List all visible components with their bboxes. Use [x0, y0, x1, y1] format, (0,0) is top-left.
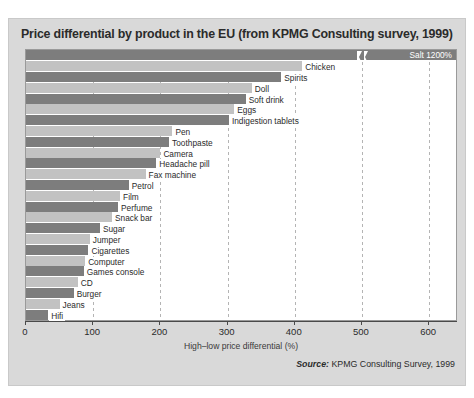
bar — [26, 212, 112, 222]
x-tick-label-100: 100 — [84, 326, 100, 337]
bar — [26, 245, 88, 255]
x-tick-label-300: 300 — [219, 326, 235, 337]
bar-label: CD — [79, 278, 95, 288]
bar — [26, 288, 74, 298]
plot-inner: Salt 1200%ChickenSpiritsDollSoft drinkEg… — [26, 50, 456, 320]
x-tick-300 — [227, 321, 228, 325]
bar-label: Games console — [85, 267, 147, 277]
bar — [26, 115, 229, 125]
bar-label: Snack bar — [113, 213, 154, 223]
bar — [26, 277, 78, 287]
bar-label: Headache pill — [157, 159, 211, 169]
bar-label: Chicken — [303, 62, 337, 72]
x-tick-500 — [361, 321, 362, 325]
bar — [26, 158, 156, 168]
bar-label: Camera — [161, 149, 195, 159]
chart-figure: Price differential by product in the EU … — [8, 18, 466, 386]
bar-label: Jeans — [61, 300, 87, 310]
bar-label: Fax machine — [147, 170, 199, 180]
source-prefix: Source: — [296, 359, 329, 369]
bar — [26, 223, 100, 233]
x-tick-label-600: 600 — [420, 326, 436, 337]
bar-label: Salt 1200% — [408, 50, 454, 60]
source-note: Source: KPMG Consulting Survey, 1999 — [296, 359, 455, 369]
bar — [26, 256, 85, 266]
bar — [26, 83, 252, 93]
chart-title: Price differential by product in the EU … — [21, 27, 453, 41]
bar-label: Film — [121, 192, 141, 202]
x-tick-100 — [92, 321, 93, 325]
bar-label: Pen — [173, 127, 192, 137]
bar-label: Doll — [253, 84, 271, 94]
x-axis-label: High–low price differential (%) — [25, 341, 457, 351]
bar — [26, 180, 129, 190]
x-tick-0 — [25, 321, 26, 325]
bar — [26, 50, 456, 60]
bar — [26, 310, 48, 320]
x-tick-label-400: 400 — [286, 326, 302, 337]
bar-label: Hifi — [49, 311, 65, 321]
bar — [26, 299, 60, 309]
plot-area: Salt 1200%ChickenSpiritsDollSoft drinkEg… — [25, 49, 457, 321]
bar-label: Cigarettes — [89, 246, 131, 256]
bar — [26, 137, 169, 147]
bar-label: Computer — [86, 257, 126, 267]
bar-label: Toothpaste — [170, 138, 215, 148]
bar — [26, 202, 118, 212]
x-tick-600 — [428, 321, 429, 325]
bar-label: Indigestion tablets — [230, 116, 301, 126]
bar — [26, 94, 246, 104]
bar — [26, 104, 234, 114]
x-axis-line — [25, 321, 457, 322]
bar-label: Perfume — [119, 203, 154, 213]
x-tick-label-500: 500 — [353, 326, 369, 337]
gridline-400 — [295, 50, 296, 320]
bar-label: Soft drink — [247, 95, 286, 105]
bar — [26, 126, 172, 136]
gridline-600 — [429, 50, 430, 320]
bar-label: Burger — [75, 289, 104, 299]
bar — [26, 191, 120, 201]
bar — [26, 266, 84, 276]
bar-label: Jumper — [91, 235, 123, 245]
bar-label: Spirits — [282, 73, 309, 83]
source-text: KPMG Consulting Survey, 1999 — [331, 359, 455, 369]
x-tick-label-200: 200 — [151, 326, 167, 337]
x-tick-400 — [294, 321, 295, 325]
gridline-500 — [362, 50, 363, 320]
x-tick-label-0: 0 — [22, 326, 27, 337]
bar-label: Eggs — [235, 105, 258, 115]
bar — [26, 234, 90, 244]
bar — [26, 169, 146, 179]
bar-label: Sugar — [101, 224, 127, 234]
x-tick-200 — [159, 321, 160, 325]
bar — [26, 148, 160, 158]
bar-label: Petrol — [130, 181, 156, 191]
bar — [26, 72, 281, 82]
bar — [26, 61, 302, 71]
